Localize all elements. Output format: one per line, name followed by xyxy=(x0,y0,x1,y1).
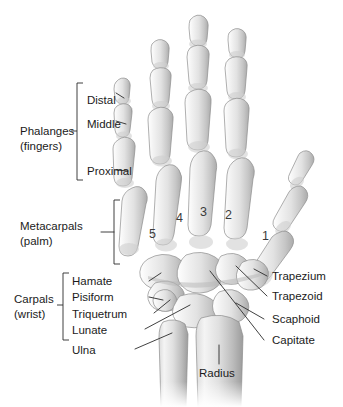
label-middle: Middle xyxy=(87,118,121,130)
metacarpal-number-5: 5 xyxy=(149,227,156,241)
label-trapezoid: Trapezoid xyxy=(272,290,323,302)
label-distal: Distal xyxy=(87,94,116,106)
metacarpal-number-4: 4 xyxy=(176,211,183,225)
metacarpal-number-2: 2 xyxy=(225,208,232,222)
hand-skeleton-diagram: Phalanges (fingers) Distal Middle Proxim… xyxy=(0,0,343,407)
carpals-label-line2: (wrist) xyxy=(14,308,45,320)
group-label-phalanges: Phalanges (fingers) xyxy=(20,125,75,152)
group-label-metacarpals: Metacarpals (palm) xyxy=(20,220,83,247)
label-capitate: Capitate xyxy=(272,334,315,346)
label-trapezium: Trapezium xyxy=(272,270,326,282)
carpal-bones xyxy=(140,252,269,327)
metacarpal-bones xyxy=(119,151,254,256)
group-label-carpals: Carpals (wrist) xyxy=(14,293,54,320)
label-hamate: Hamate xyxy=(72,275,112,287)
digit-4-bones xyxy=(148,40,173,167)
digit-2-bones xyxy=(224,29,249,160)
label-proximal: Proximal xyxy=(87,165,132,177)
bone-illustration xyxy=(113,15,314,407)
label-radius: Radius xyxy=(199,367,235,379)
bracket-phalanges xyxy=(77,83,83,180)
metacarpals-label-line2: (palm) xyxy=(20,235,53,247)
metacarpals-label-line1: Metacarpals xyxy=(20,220,83,232)
digit-3-bones xyxy=(185,15,211,153)
diagram-canvas: Phalanges (fingers) Distal Middle Proxim… xyxy=(0,0,343,407)
label-scaphoid: Scaphoid xyxy=(272,313,320,325)
label-ulna: Ulna xyxy=(72,344,96,356)
metacarpal-number-1: 1 xyxy=(262,229,269,243)
metacarpal-number-3: 3 xyxy=(200,205,207,219)
phalanges-label-line1: Phalanges xyxy=(20,125,75,137)
bracket-metacarpals xyxy=(114,200,120,264)
forearm-bones xyxy=(150,315,255,407)
carpals-label-line1: Carpals xyxy=(14,293,54,305)
label-lunate: Lunate xyxy=(72,324,107,336)
label-pisiform: Pisiform xyxy=(72,291,114,303)
bracket-carpals xyxy=(63,273,69,340)
phalanges-label-line2: (fingers) xyxy=(20,140,62,152)
label-triquetrum: Triquetrum xyxy=(72,308,127,320)
